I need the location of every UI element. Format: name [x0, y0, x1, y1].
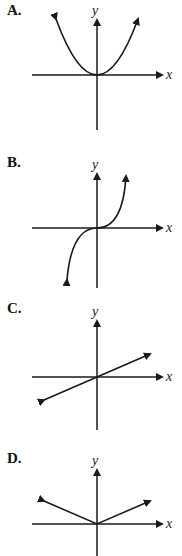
option-a: A. y x [0, 0, 182, 140]
x-axis-label: x [165, 220, 173, 235]
graph-a-parabola: y x [0, 0, 182, 140]
x-axis-label: x [165, 516, 173, 531]
y-axis-label: y [90, 304, 99, 319]
x-axis-label: x [165, 67, 173, 82]
graph-d-absolute-value: y x [0, 430, 182, 556]
x-axis-label: x [165, 369, 173, 384]
option-b: B. y x [0, 140, 182, 290]
y-axis-label: y [90, 3, 99, 18]
y-axis-label: y [90, 453, 99, 468]
graph-b-cubic: y x [0, 140, 182, 290]
option-c: C. y x [0, 290, 182, 430]
option-d: D. y x [0, 430, 182, 556]
graph-c-line: y x [0, 290, 182, 430]
y-axis-label: y [90, 157, 99, 172]
